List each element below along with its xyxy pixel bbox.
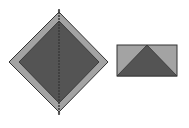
- axis-bottom-marker: [58, 112, 60, 114]
- diagram-canvas: [0, 0, 189, 128]
- axis-top-marker: [58, 10, 60, 12]
